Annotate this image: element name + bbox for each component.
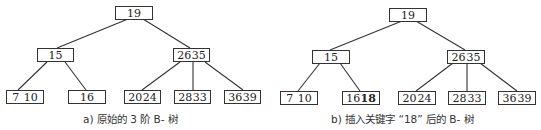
key: 20 (403, 93, 417, 104)
tree-b-leaf-5: 36 39 (498, 91, 536, 105)
key: 28 (178, 92, 192, 103)
tree-b-left-node: 15 (312, 50, 350, 64)
tree-a-right-node: 26 35 (173, 48, 210, 62)
tree-b-leaf-2: 16 18 (342, 91, 380, 105)
tree-a-leaf-1: 7 10 (6, 90, 44, 104)
tree-a-root-node: 19 (115, 6, 153, 20)
key: 36 (503, 93, 517, 104)
tree-a-leaf-5: 36 39 (224, 90, 261, 104)
key: 16 (80, 92, 94, 103)
key: 20 (128, 92, 142, 103)
tree-b-leaf-1: 7 10 (280, 91, 318, 105)
key: 7 (12, 92, 19, 103)
key: 39 (518, 93, 532, 104)
key: 15 (49, 50, 63, 61)
tree-b-leaf-3: 20 24 (398, 91, 436, 105)
key: 10 (24, 92, 38, 103)
tree-b-right-node: 26 35 (447, 50, 485, 64)
tree-a-left-node: 15 (37, 48, 74, 62)
key: 28 (453, 93, 467, 104)
tree-a-leaf-2: 16 (68, 90, 106, 104)
key: 19 (127, 8, 141, 19)
tree-b-leaf-4: 28 33 (448, 91, 486, 105)
key: 7 (286, 93, 293, 104)
key: 16 (346, 93, 360, 104)
key: 10 (298, 93, 312, 104)
key: 39 (243, 92, 257, 103)
key: 15 (324, 52, 338, 63)
key: 36 (228, 92, 242, 103)
key: 19 (401, 10, 415, 21)
key: 35 (192, 50, 206, 61)
inserted-key: 18 (361, 93, 376, 104)
tree-b-root-node: 19 (389, 8, 427, 22)
key: 26 (177, 50, 191, 61)
tree-a-caption: a) 原始的 3 阶 B- 树 (83, 111, 178, 126)
key: 24 (143, 92, 157, 103)
key: 35 (467, 52, 481, 63)
tree-b-caption: b) 插入关键字 “18” 后的 B- 树 (331, 111, 474, 126)
key: 26 (452, 52, 466, 63)
key: 24 (418, 93, 432, 104)
key: 33 (193, 92, 207, 103)
tree-a-leaf-4: 28 33 (174, 90, 211, 104)
key: 33 (468, 93, 482, 104)
tree-a-leaf-3: 20 24 (124, 90, 161, 104)
